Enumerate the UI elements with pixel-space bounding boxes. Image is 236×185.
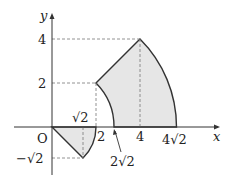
tick-label-x-sqrt2: √2 xyxy=(72,110,89,125)
diagram-canvas: y x O 4 2 √2 2 4 4√2 2√2 −√2 xyxy=(0,0,236,185)
tick-label-x-2sqrt2: 2√2 xyxy=(110,154,135,169)
y-axis-arrow-icon xyxy=(50,13,55,19)
upper-region xyxy=(96,39,177,127)
tick-label-x-4sqrt2: 4√2 xyxy=(162,132,187,147)
tick-label-y-2: 2 xyxy=(38,76,46,91)
lower-region xyxy=(52,127,96,158)
tick-label-x-4: 4 xyxy=(136,129,144,144)
y-axis-label: y xyxy=(39,8,48,23)
pointer-arrow-icon xyxy=(113,129,117,135)
x-axis-label: x xyxy=(213,129,221,144)
tick-label-x-2: 2 xyxy=(97,129,105,144)
tick-label-y-neg-sqrt2: −√2 xyxy=(16,151,43,166)
origin-label: O xyxy=(37,131,48,146)
tick-label-y-4: 4 xyxy=(38,32,46,47)
